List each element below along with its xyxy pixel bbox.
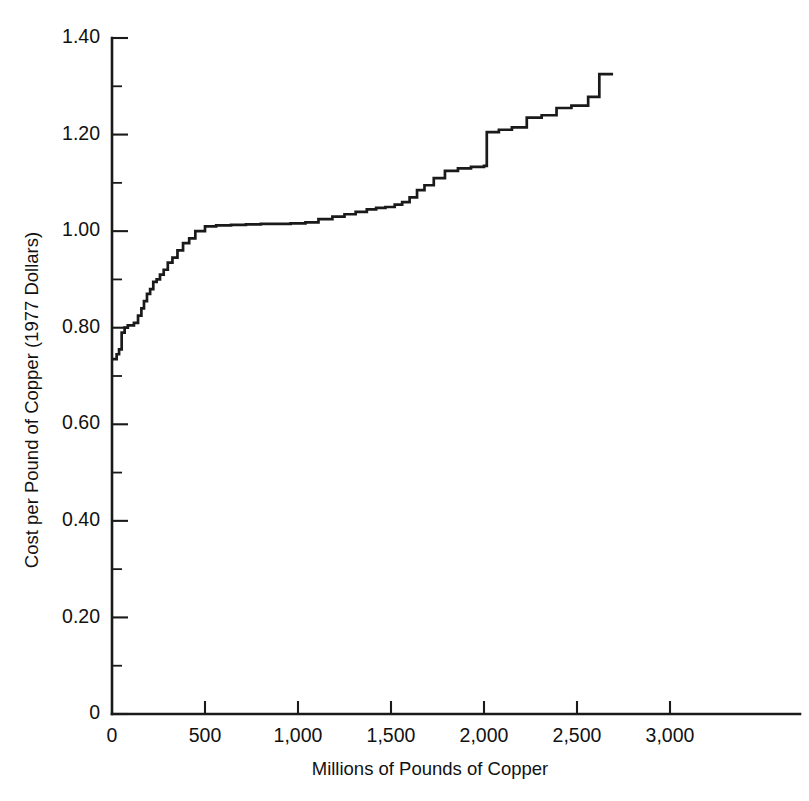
y-tick-label: 1.00 bbox=[62, 218, 100, 240]
x-tick-label: 0 bbox=[107, 724, 118, 746]
x-tick-label: 3,000 bbox=[646, 724, 695, 746]
x-tick-label: 500 bbox=[189, 724, 222, 746]
y-axis-tick-labels: 00.200.400.600.801.001.201.40 bbox=[62, 25, 100, 723]
x-axis-ticks bbox=[205, 701, 670, 714]
y-tick-label: 1.40 bbox=[62, 25, 100, 47]
y-tick-label: 0 bbox=[89, 701, 100, 723]
copper-supply-curve bbox=[112, 74, 613, 359]
chart-figure: 00.200.400.600.801.001.201.40 05001,0001… bbox=[0, 0, 809, 801]
supply-curve-chart: 00.200.400.600.801.001.201.40 05001,0001… bbox=[0, 0, 809, 801]
y-tick-label: 0.60 bbox=[62, 411, 100, 433]
x-axis-title: Millions of Pounds of Copper bbox=[312, 758, 549, 779]
x-tick-label: 2,000 bbox=[460, 724, 509, 746]
y-tick-label: 1.20 bbox=[62, 122, 100, 144]
y-axis-ticks bbox=[112, 38, 128, 714]
y-tick-label: 0.40 bbox=[62, 508, 100, 530]
y-axis-title: Cost per Pound of Copper (1977 Dollars) bbox=[21, 232, 42, 568]
x-tick-label: 1,000 bbox=[274, 724, 323, 746]
x-tick-label: 2,500 bbox=[553, 724, 602, 746]
y-tick-label: 0.80 bbox=[62, 315, 100, 337]
x-axis-tick-labels: 05001,0001,5002,0002,5003,000 bbox=[107, 724, 695, 746]
y-tick-label: 0.20 bbox=[62, 605, 100, 627]
x-tick-label: 1,500 bbox=[367, 724, 416, 746]
